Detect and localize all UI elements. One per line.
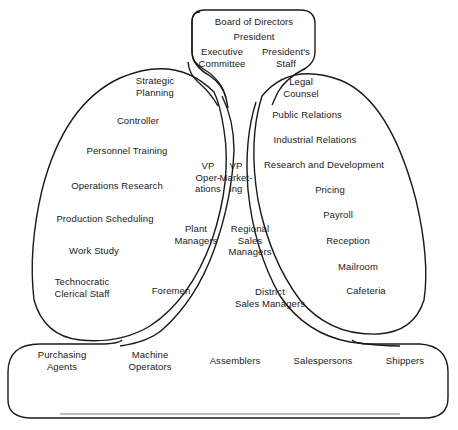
text: Oper- [196,172,221,183]
text: VP [202,160,215,171]
label-payroll: Payroll [323,209,353,221]
text: Strategic [136,75,174,86]
text: Planning [136,87,174,98]
text: Sales [238,235,262,246]
label-salespersons: Salespersons [294,355,353,367]
label-assemblers: Assemblers [210,355,261,367]
text: VP [230,160,243,171]
label-mailroom: Mailroom [338,261,378,273]
label-shippers: Shippers [386,355,424,367]
label-production-scheduling: Production Scheduling [56,213,153,225]
label-personnel-training: Personnel Training [86,145,167,157]
label-legal-counsel: LegalCounsel [283,76,319,99]
text: Plant [185,223,207,234]
label-executive-committee: ExecutiveCommittee [199,46,246,69]
label-controller: Controller [117,115,159,127]
text: ing [230,183,243,194]
technostructure-outline [32,69,226,341]
label-research-and-development: Research and Development [264,159,384,171]
label-pricing: Pricing [315,184,345,196]
label-vp-marketing: VPMarket-ing [220,160,253,195]
text: Operators [128,361,171,372]
text: Managers [174,235,217,246]
label-machine-operators: MachineOperators [128,349,171,372]
text: Technocratic [55,276,110,287]
label-industrial-relations: Industrial Relations [274,134,357,146]
label-foremen: Foremen [152,285,191,297]
label-presidents-staff: President'sStaff [262,46,310,69]
label-purchasing-agents: PurchasingAgents [38,349,87,372]
text: ations [195,183,221,194]
label-cafeteria: Cafeteria [346,285,385,297]
label-regional-sales-managers: RegionalSalesManagers [228,223,271,258]
label-operations-research: Operations Research [71,180,163,192]
text: District [255,286,285,297]
text: Staff [276,58,296,69]
label-vp-operations: VPOper-ations [195,160,221,195]
text: Purchasing [38,349,87,360]
text: Agents [47,361,77,372]
label-plant-managers: PlantManagers [174,223,217,246]
text: Committee [199,58,246,69]
label-technocratic-clerical-staff: TechnocraticClerical Staff [54,276,109,299]
label-president: President [233,31,274,43]
label-work-study: Work Study [69,245,119,257]
text: Legal [289,76,313,87]
label-reception: Reception [326,235,370,247]
label-public-relations: Public Relations [272,109,342,121]
text: Market- [220,172,253,183]
text: Counsel [283,88,319,99]
text: President's [262,46,310,57]
text: Regional [231,223,269,234]
text: Machine [132,349,169,360]
text: Sales Managers [235,298,305,309]
text: Executive [201,46,243,57]
text: Clerical Staff [54,288,109,299]
label-board-of-directors: Board of Directors [215,16,293,28]
text: Managers [228,246,271,257]
org-structure-diagram: Board of Directors President ExecutiveCo… [0,0,458,430]
label-district-sales-managers: DistrictSales Managers [235,286,305,309]
label-strategic-planning: StrategicPlanning [136,75,174,98]
